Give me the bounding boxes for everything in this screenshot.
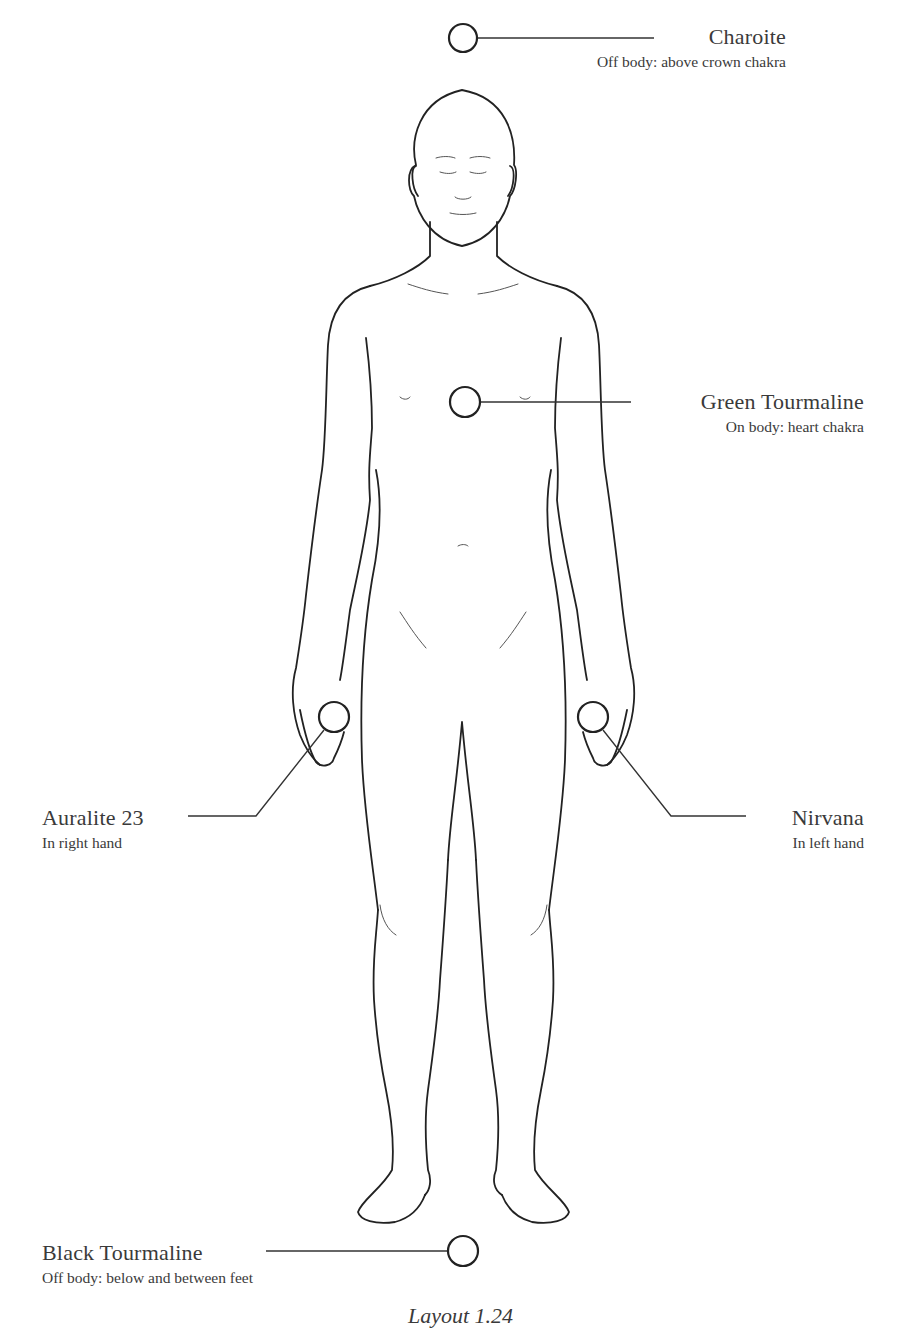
crystal-name: Black Tourmaline (42, 1242, 253, 1264)
crystal-placement: On body: heart chakra (701, 419, 864, 435)
brow-left (470, 157, 490, 159)
ear-right (412, 166, 418, 196)
crystal-placement: In right hand (42, 835, 144, 851)
label-nirvana: Nirvana In left hand (792, 807, 864, 851)
crystal-name: Nirvana (792, 807, 864, 829)
left-arm-outer (557, 286, 634, 765)
figure-caption: Layout 1.24 (408, 1305, 513, 1327)
brow-right (436, 157, 455, 159)
neck-left (497, 222, 557, 286)
nose (455, 197, 471, 199)
mouth (450, 213, 476, 215)
left-leg-outer (502, 910, 569, 1223)
label-auralite-23: Auralite 23 In right hand (42, 807, 144, 851)
marker-charoite-icon[interactable] (449, 24, 477, 52)
neck-right (370, 222, 430, 286)
nipple-left (520, 397, 530, 399)
clavicle-right (408, 284, 448, 294)
marker-auralite-icon[interactable] (319, 702, 349, 732)
label-green-tourmaline: Green Tourmaline On body: heart chakra (701, 391, 864, 435)
eye-right (440, 172, 456, 174)
head-outline (409, 90, 516, 246)
crystal-name: Auralite 23 (42, 807, 144, 829)
hip-line-left (500, 612, 526, 648)
left-arm-inner (555, 338, 587, 680)
crystal-markers (319, 24, 608, 1266)
clavicle-left (478, 284, 518, 294)
navel (458, 545, 468, 547)
crystal-placement: Off body: above crown chakra (597, 54, 786, 70)
right-leg-outer (358, 910, 425, 1223)
crystal-name: Green Tourmaline (701, 391, 864, 413)
right-leg-inner (425, 860, 448, 1195)
label-black-tourmaline: Black Tourmaline Off body: below and bet… (42, 1242, 253, 1286)
marker-black-tourmaline-icon[interactable] (448, 1236, 478, 1266)
nipple-right (400, 397, 410, 399)
marker-nirvana-icon[interactable] (578, 702, 608, 732)
hip-line-right (400, 612, 426, 648)
leader-lines (188, 38, 746, 1251)
crystal-placement: In left hand (792, 835, 864, 851)
left-leg-inner (476, 860, 502, 1195)
crystal-name: Charoite (597, 26, 786, 48)
right-arm-inner (340, 338, 372, 680)
crotch-line (448, 722, 476, 860)
body-outline (293, 90, 634, 1223)
label-charoite: Charoite Off body: above crown chakra (597, 26, 786, 70)
knee-left (531, 905, 547, 935)
knee-right (380, 905, 396, 935)
eye-left (470, 172, 486, 174)
right-arm-outer (293, 286, 370, 765)
crystal-placement: Off body: below and between feet (42, 1270, 253, 1286)
marker-green-tourmaline-icon[interactable] (450, 387, 480, 417)
